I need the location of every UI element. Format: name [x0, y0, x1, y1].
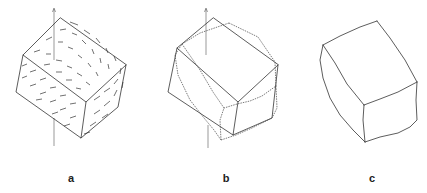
cube-overlay-diagram: [140, 0, 290, 160]
panel-c: c: [290, 0, 427, 193]
panel-b: b: [140, 0, 290, 193]
panel-label-b: b: [216, 172, 236, 184]
panel-label-c: c: [362, 172, 382, 184]
cube-vector-field-diagram: [0, 0, 140, 160]
panel-a: a: [0, 0, 140, 193]
panel-label-a: a: [61, 172, 81, 184]
deformed-cube-diagram: [290, 0, 427, 160]
